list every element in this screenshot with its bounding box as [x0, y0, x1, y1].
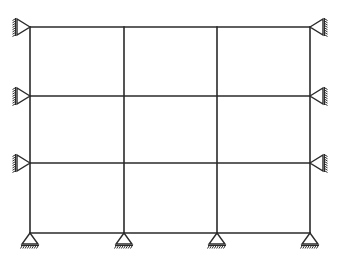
ground-hatch-line — [23, 246, 25, 249]
ground-hatch-line — [305, 246, 307, 249]
ground-hatch-line — [119, 246, 121, 249]
ground-hatch-line — [325, 169, 328, 171]
ground-hatch-line — [325, 157, 328, 159]
ground-hatch-line — [325, 99, 328, 101]
ground-hatch-line — [214, 246, 216, 249]
ground-hatch-line — [325, 95, 328, 97]
ground-hatch-line — [303, 246, 305, 249]
pin-triangle — [22, 233, 38, 244]
ground-hatch-line — [212, 246, 214, 249]
pin-triangle — [209, 233, 225, 244]
ground-hatch-line — [317, 246, 319, 249]
ground-hatch-line — [25, 246, 27, 249]
ground-hatch-line — [13, 97, 16, 99]
frame-members — [30, 27, 310, 233]
ground-hatch-line — [219, 246, 221, 249]
pin-support-icon — [310, 154, 328, 173]
ground-hatch-line — [13, 21, 16, 23]
pin-support-icon — [310, 18, 328, 37]
ground-hatch-line — [325, 24, 328, 26]
ground-hatch-line — [325, 33, 328, 35]
ground-hatch-line — [325, 21, 328, 23]
ground-hatch-line — [307, 246, 309, 249]
ground-hatch-line — [13, 35, 16, 37]
ground-hatch-line — [325, 26, 328, 28]
ground-hatch-line — [21, 246, 23, 249]
ground-hatch-line — [310, 246, 312, 249]
ground-hatch-line — [13, 24, 16, 26]
ground-hatch-line — [325, 160, 328, 162]
ground-hatch-line — [325, 93, 328, 95]
ground-hatch-line — [325, 19, 328, 21]
ground-hatch-line — [13, 90, 16, 92]
ground-hatch-line — [210, 246, 212, 249]
pin-triangle — [310, 19, 323, 35]
ground-hatch-line — [325, 97, 328, 99]
pin-support-icon — [115, 233, 134, 249]
pin-triangle — [17, 88, 30, 104]
pin-support-icon — [208, 233, 227, 249]
pin-triangle — [302, 233, 318, 244]
ground-hatch-line — [13, 171, 16, 173]
pin-support-icon — [301, 233, 320, 249]
ground-hatch-line — [217, 246, 219, 249]
ground-hatch-line — [13, 164, 16, 166]
pin-support-icon — [310, 87, 328, 106]
ground-hatch-line — [117, 246, 119, 249]
ground-hatch-line — [37, 246, 39, 249]
ground-hatch-line — [124, 246, 126, 249]
ground-hatch-line — [325, 90, 328, 92]
ground-hatch-line — [13, 157, 16, 159]
ground-hatch-line — [13, 166, 16, 168]
pin-support-icon — [13, 18, 31, 37]
ground-hatch-line — [13, 93, 16, 95]
ground-hatch-line — [325, 35, 328, 37]
ground-hatch-line — [208, 246, 210, 249]
frame-diagram — [0, 0, 338, 267]
ground-hatch-line — [325, 162, 328, 164]
ground-hatch-line — [301, 246, 303, 249]
ground-hatch-line — [13, 104, 16, 106]
pin-triangle — [116, 233, 132, 244]
ground-hatch-line — [224, 246, 226, 249]
ground-hatch-line — [126, 246, 128, 249]
ground-hatch-line — [325, 171, 328, 173]
ground-hatch-line — [325, 155, 328, 157]
pin-triangle — [310, 155, 323, 171]
ground-hatch-line — [13, 19, 16, 21]
ground-hatch-line — [325, 88, 328, 90]
ground-hatch-line — [131, 246, 133, 249]
ground-hatch-line — [13, 33, 16, 35]
ground-hatch-line — [314, 246, 316, 249]
ground-hatch-line — [13, 30, 16, 32]
pin-triangle — [17, 155, 30, 171]
pin-triangle — [17, 19, 30, 35]
ground-hatch-line — [13, 88, 16, 90]
ground-hatch-line — [13, 99, 16, 101]
pin-support-icon — [13, 154, 31, 173]
ground-hatch-line — [115, 246, 117, 249]
ground-hatch-line — [325, 164, 328, 166]
ground-hatch-line — [325, 30, 328, 32]
ground-hatch-line — [13, 28, 16, 30]
ground-hatch-line — [13, 160, 16, 162]
ground-hatch-line — [13, 155, 16, 157]
ground-hatch-line — [13, 102, 16, 104]
ground-hatch-line — [27, 246, 29, 249]
ground-hatch-line — [32, 246, 33, 249]
pin-triangle — [310, 88, 323, 104]
pin-support-icon — [13, 87, 31, 106]
frame-supports — [13, 18, 328, 249]
ground-hatch-line — [13, 95, 16, 97]
ground-hatch-line — [121, 246, 123, 249]
ground-hatch-line — [34, 246, 36, 249]
pin-support-icon — [21, 233, 40, 249]
ground-hatch-line — [325, 28, 328, 30]
ground-hatch-line — [325, 104, 328, 106]
ground-hatch-line — [30, 246, 32, 249]
ground-hatch-line — [325, 166, 328, 168]
ground-hatch-line — [13, 162, 16, 164]
ground-hatch-line — [325, 102, 328, 104]
ground-hatch-line — [13, 169, 16, 171]
ground-hatch-line — [13, 26, 16, 28]
